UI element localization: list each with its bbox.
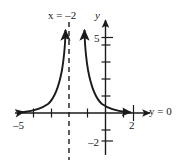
graph-figure: x = –2 y y = 0 –5 2 5 –2 xyxy=(0,0,184,164)
horizontal-asymptote-label: y = 0 xyxy=(149,106,172,117)
x-tick-label-2: 2 xyxy=(129,120,135,131)
y-axis-label: y xyxy=(95,10,100,21)
vertical-asymptote-label: x = –2 xyxy=(48,10,76,21)
y-axis-ticks xyxy=(102,38,114,142)
y-tick-label-neg2: –2 xyxy=(88,137,99,148)
x-tick-label-neg5: –5 xyxy=(13,120,24,131)
curve-right-branch xyxy=(85,30,132,112)
y-tick-label-5: 5 xyxy=(94,33,100,44)
curve-left-branch xyxy=(20,30,66,113)
